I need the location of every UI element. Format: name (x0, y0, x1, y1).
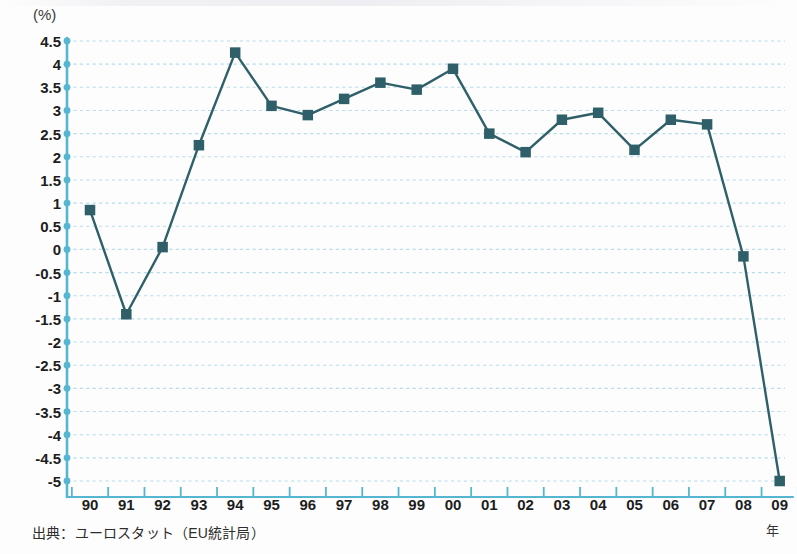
x-axis-tick-06: 06 (651, 497, 691, 512)
x-axis-tick-09: 09 (760, 497, 797, 512)
x-axis-tick-07: 07 (687, 497, 727, 512)
x-axis-tick-03: 03 (542, 497, 582, 512)
x-axis-tick-92: 92 (143, 497, 183, 512)
x-axis-tick-08: 08 (723, 497, 763, 512)
x-axis-tick-01: 01 (469, 497, 509, 512)
x-axis-tick-02: 02 (506, 497, 546, 512)
x-axis-tick-94: 94 (215, 497, 255, 512)
x-axis-tick-00: 00 (433, 497, 473, 512)
x-axis-tick-96: 96 (288, 497, 328, 512)
x-axis-tick-97: 97 (324, 497, 364, 512)
x-axis-unit-label: 年 (766, 520, 779, 539)
x-axis-tick-05: 05 (615, 497, 655, 512)
x-axis-tick-labels: 9091929394959697989900010203040506070809 (0, 0, 797, 554)
x-axis-tick-91: 91 (106, 497, 146, 512)
y-axis-unit-label: (%) (33, 6, 56, 23)
x-axis-tick-93: 93 (179, 497, 219, 512)
x-axis-tick-99: 99 (397, 497, 437, 512)
x-axis-tick-98: 98 (360, 497, 400, 512)
x-axis-tick-04: 04 (578, 497, 618, 512)
x-axis-tick-95: 95 (252, 497, 292, 512)
x-axis-tick-90: 90 (70, 497, 110, 512)
source-note: 出典：ユーロスタット（EU統計局） (32, 522, 265, 542)
chart-page: 4.543.532.521.510.50-0.5-1-1.5-2-2.5-3-3… (0, 0, 797, 554)
